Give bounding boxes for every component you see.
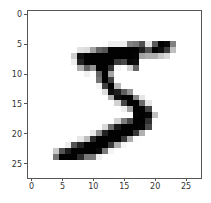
y-tick-label: 10 xyxy=(2,70,22,79)
image-axes xyxy=(27,10,202,179)
y-tick-mark xyxy=(24,74,27,75)
y-tick-mark xyxy=(24,133,27,134)
y-tick-mark xyxy=(24,103,27,104)
y-tick-label: 15 xyxy=(2,99,22,108)
pixel-grid xyxy=(28,11,201,178)
x-tick-label: 20 xyxy=(150,182,160,191)
x-tick-mark xyxy=(93,178,94,181)
x-tick-label: 0 xyxy=(29,182,34,191)
y-tick-mark xyxy=(24,163,27,164)
y-tick-label: 0 xyxy=(2,10,22,19)
y-tick-label: 5 xyxy=(2,40,22,49)
x-tick-mark xyxy=(31,178,32,181)
y-tick-mark xyxy=(24,14,27,15)
y-tick-label: 20 xyxy=(2,129,22,138)
x-tick-mark xyxy=(124,178,125,181)
x-tick-label: 25 xyxy=(181,182,191,191)
x-tick-label: 5 xyxy=(60,182,65,191)
x-tick-label: 10 xyxy=(88,182,98,191)
x-tick-mark xyxy=(186,178,187,181)
y-tick-label: 25 xyxy=(2,159,22,168)
x-tick-mark xyxy=(155,178,156,181)
x-tick-mark xyxy=(62,178,63,181)
x-tick-label: 15 xyxy=(119,182,129,191)
pixel-cell xyxy=(195,172,201,178)
y-tick-mark xyxy=(24,44,27,45)
